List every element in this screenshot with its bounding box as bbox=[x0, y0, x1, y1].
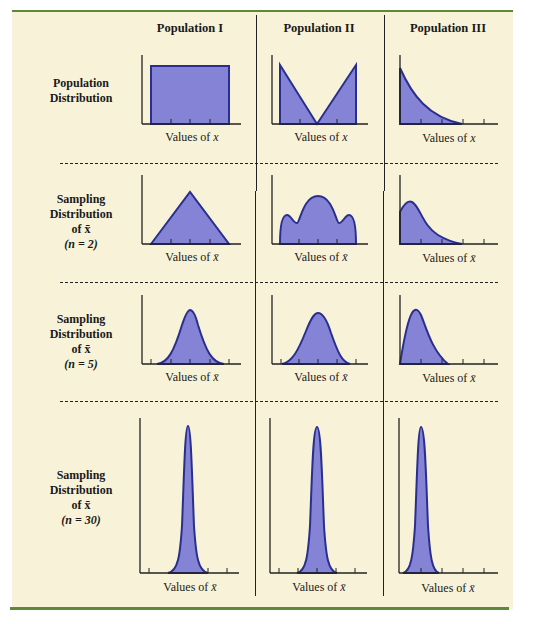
x-axis-label: Values of x̄ bbox=[393, 581, 503, 596]
row-label-sampling-n5: Sampling Distribution of x̄ (n = 5) bbox=[40, 312, 122, 372]
column-divider bbox=[256, 15, 257, 191]
x-axis-label: Values of x̄ bbox=[135, 580, 245, 595]
chart-pop1-n5 bbox=[140, 295, 244, 367]
row-separator bbox=[60, 401, 498, 402]
chart-pop2-population bbox=[270, 55, 374, 127]
chart-pop1-n30 bbox=[138, 416, 244, 576]
column-header-population-3: Population III bbox=[388, 21, 508, 36]
chart-pop2-n30 bbox=[268, 416, 374, 576]
x-axis-label: Values of x bbox=[137, 130, 247, 145]
column-divider bbox=[255, 191, 256, 596]
chart-pop3-n30 bbox=[397, 416, 503, 576]
column-header-population-1: Population I bbox=[130, 21, 250, 36]
x-axis-label: Values of x̄ bbox=[266, 370, 376, 385]
chart-pop1-population bbox=[140, 55, 244, 127]
chart-pop2-n5 bbox=[270, 295, 374, 367]
row-label-sampling-n30: Sampling Distribution of x̄ (n = 30) bbox=[40, 468, 122, 528]
x-axis-label: Values of x̄ bbox=[264, 580, 374, 595]
row-separator bbox=[60, 163, 498, 164]
x-axis-label: Values of x bbox=[394, 131, 504, 146]
x-axis-label: Values of x̄ bbox=[137, 250, 247, 265]
column-divider bbox=[384, 15, 385, 191]
x-axis-label: Values of x̄ bbox=[137, 370, 247, 385]
chart-pop3-n5 bbox=[398, 295, 502, 367]
chart-pop3-n2 bbox=[398, 175, 502, 247]
row-label-sampling-n2: Sampling Distribution of x̄ (n = 2) bbox=[40, 192, 122, 252]
chart-pop3-population bbox=[398, 55, 502, 127]
bottom-rule bbox=[10, 607, 509, 610]
x-axis-label: Values of x bbox=[266, 130, 376, 145]
x-axis-label: Values of x̄ bbox=[394, 371, 504, 386]
column-divider bbox=[383, 191, 384, 596]
x-axis-label: Values of x̄ bbox=[266, 250, 376, 265]
chart-pop2-n2 bbox=[270, 175, 374, 247]
chart-pop1-n2 bbox=[140, 175, 244, 247]
x-axis-label: Values of x̄ bbox=[394, 251, 504, 266]
row-separator bbox=[60, 282, 498, 283]
row-label-population-distribution: Population Distribution bbox=[40, 76, 122, 106]
cropped-heading bbox=[150, 0, 400, 4]
column-header-population-2: Population II bbox=[259, 21, 379, 36]
